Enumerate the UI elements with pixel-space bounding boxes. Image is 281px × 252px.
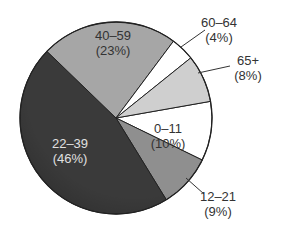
slice-percent-label: (4%) [205, 30, 232, 45]
slice-label: 12–21 [200, 189, 236, 204]
slice-label: 65+ [237, 53, 259, 68]
slice-percent-label: (23%) [96, 43, 131, 58]
slice-percent-label: (9%) [204, 204, 231, 219]
slice-label: 40–59 [95, 28, 131, 43]
slice-label: 22–39 [52, 136, 88, 151]
slice-percent-label: (10%) [151, 136, 186, 151]
slice-percent-label: (46%) [53, 151, 88, 166]
slice-label: 60–64 [201, 15, 237, 30]
leader-line [181, 30, 205, 47]
slice-percent-label: (8%) [234, 68, 261, 83]
leader-line [198, 66, 230, 73]
age-distribution-pie-chart: 0–11(10%)12–21(9%)22–39(46%)40–59(23%)60… [0, 0, 281, 252]
slice-label: 0–11 [154, 121, 182, 136]
